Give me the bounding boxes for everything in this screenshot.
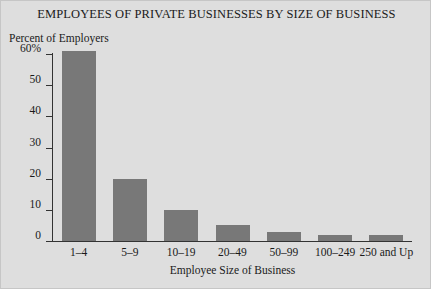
y-axis-tick bbox=[46, 210, 53, 211]
y-axis-tick-label: 30 bbox=[30, 142, 42, 143]
bar bbox=[164, 210, 198, 241]
y-axis-tick bbox=[46, 116, 53, 117]
y-axis-tick-label: 20 bbox=[30, 173, 42, 174]
y-axis-tick bbox=[46, 179, 53, 180]
bar bbox=[267, 232, 301, 241]
bar bbox=[369, 235, 403, 241]
y-axis-tick bbox=[46, 241, 53, 242]
bar bbox=[216, 225, 250, 241]
x-axis-title: Employee Size of Business bbox=[53, 264, 412, 276]
y-axis-tick-label: 0 bbox=[35, 235, 41, 236]
y-axis-tick bbox=[46, 85, 53, 86]
y-axis-tick-label: 60% bbox=[20, 48, 41, 49]
bar bbox=[62, 51, 96, 241]
y-axis-tick bbox=[46, 148, 53, 149]
bar bbox=[318, 235, 352, 241]
chart-title: EMPLOYEES OF PRIVATE BUSINESSES BY SIZE … bbox=[1, 7, 431, 22]
x-axis-line bbox=[52, 241, 412, 242]
y-axis-tick-label: 50 bbox=[30, 79, 42, 80]
y-axis-tick-label: 10 bbox=[30, 204, 42, 205]
y-axis-tick-label: 40 bbox=[30, 110, 42, 111]
bars-group bbox=[53, 54, 412, 241]
y-axis-tick bbox=[46, 54, 53, 55]
bar bbox=[113, 179, 147, 241]
chart-figure: EMPLOYEES OF PRIVATE BUSINESSES BY SIZE … bbox=[0, 0, 431, 289]
x-axis-category-label: 250 and Up bbox=[353, 246, 420, 258]
